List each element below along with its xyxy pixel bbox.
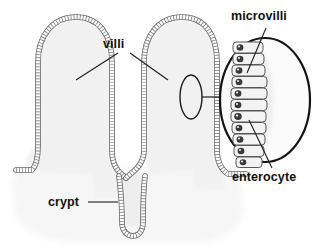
label-crypt: crypt	[48, 196, 79, 209]
enterocyte-cell	[231, 111, 266, 122]
enterocyte-cell	[231, 88, 267, 99]
label-villi: villi	[103, 38, 124, 51]
enterocyte-stack	[231, 42, 267, 168]
enterocyte-cell	[236, 157, 262, 168]
enterocyte-cell	[231, 100, 267, 111]
enterocyte-cell	[233, 54, 264, 65]
enterocyte-cell	[233, 42, 263, 53]
label-enterocyte: enterocyte	[232, 171, 296, 184]
figure-canvas: villi crypt microvilli enterocyte	[0, 0, 315, 249]
enterocyte-cell	[232, 77, 267, 88]
enterocyte-cell	[234, 146, 264, 157]
enterocyte-cell	[232, 123, 266, 134]
enterocyte-magnification	[220, 38, 310, 168]
label-microvilli: microvilli	[231, 10, 287, 23]
villi-diagram-svg	[0, 0, 315, 249]
